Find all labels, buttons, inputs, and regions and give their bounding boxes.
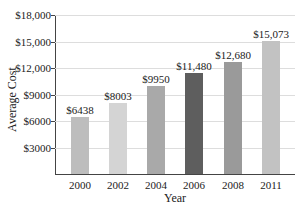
bar-value-label: $12,680 (208, 49, 258, 61)
bar-value-label: $6438 (55, 104, 105, 116)
x-axis (55, 174, 295, 175)
y-tick-label: $3000 (24, 142, 52, 154)
x-tick-label: 2000 (60, 179, 100, 191)
y-tick-mark (51, 95, 55, 96)
bar-value-label: $8003 (93, 90, 143, 102)
y-tick-label: $15,000 (15, 36, 51, 48)
y-tick-mark (51, 42, 55, 43)
y-tick-label: $12,000 (15, 62, 51, 74)
x-tick-label: 2004 (136, 179, 176, 191)
x-tick-label: 2011 (251, 179, 291, 191)
gridline (55, 15, 295, 16)
bar-2008 (224, 62, 242, 174)
gridline (55, 121, 295, 122)
bar-chart: Average Cost Year $3000$6000$9000$12,000… (0, 0, 301, 205)
y-tick-label: $9000 (24, 89, 52, 101)
gridline (55, 148, 295, 149)
gridline (55, 42, 295, 43)
x-tick-label: 2008 (213, 179, 253, 191)
y-tick-mark (51, 68, 55, 69)
y-tick-label: $6000 (24, 115, 52, 127)
bar-value-label: $9950 (131, 73, 181, 85)
y-tick-mark (51, 148, 55, 149)
bar-2004 (147, 86, 165, 174)
bar-value-label: $15,073 (246, 28, 296, 40)
bar-2006 (185, 73, 203, 174)
gridline (55, 95, 295, 96)
x-axis-label: Year (150, 191, 200, 205)
y-tick-mark (51, 121, 55, 122)
x-tick-label: 2006 (174, 179, 214, 191)
x-tick-label: 2002 (98, 179, 138, 191)
y-tick-mark (51, 15, 55, 16)
y-tick-label: $18,000 (15, 9, 51, 21)
bar-2000 (71, 117, 89, 174)
bar-value-label: $11,480 (169, 60, 219, 72)
bar-2011 (262, 41, 280, 174)
bar-2002 (109, 103, 127, 174)
